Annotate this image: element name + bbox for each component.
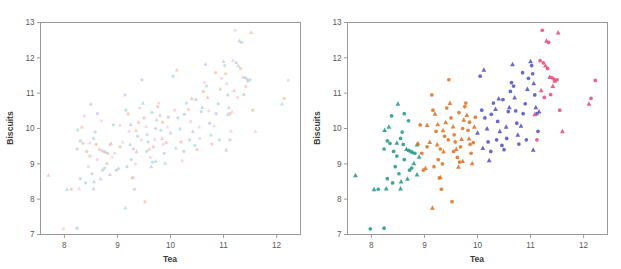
data-point xyxy=(153,137,157,141)
x-tick-label: 10 xyxy=(166,241,176,250)
data-point xyxy=(460,159,465,164)
data-point xyxy=(244,84,248,88)
data-point xyxy=(402,158,406,162)
data-point xyxy=(129,122,133,126)
data-point xyxy=(234,29,237,32)
data-point xyxy=(154,127,157,130)
right-x-axis-ticks: 89101112 xyxy=(369,235,589,250)
y-tick-label: 13 xyxy=(332,18,342,27)
data-point xyxy=(435,122,440,127)
data-point xyxy=(159,129,162,132)
data-point xyxy=(160,136,164,140)
data-point xyxy=(540,28,544,32)
right-data-points xyxy=(353,28,597,230)
data-point xyxy=(401,143,405,147)
data-point xyxy=(165,125,169,129)
data-point xyxy=(399,137,403,141)
data-point xyxy=(180,140,183,143)
data-point xyxy=(512,84,516,88)
data-point xyxy=(436,158,440,162)
data-point xyxy=(521,112,525,116)
data-point xyxy=(46,173,50,177)
data-point xyxy=(441,162,445,166)
data-point xyxy=(399,179,404,184)
y-tick-label: 11 xyxy=(333,89,342,98)
data-point xyxy=(253,129,257,133)
data-point xyxy=(431,108,435,112)
data-point xyxy=(151,160,154,163)
data-point xyxy=(210,142,213,145)
data-point xyxy=(466,128,470,132)
data-point xyxy=(407,119,411,123)
data-point xyxy=(441,128,446,132)
data-point xyxy=(158,113,162,117)
data-point xyxy=(70,188,73,191)
y-tick-label: 9 xyxy=(337,160,342,169)
data-point xyxy=(531,72,535,76)
x-tick-label: 8 xyxy=(369,241,374,250)
right-y-axis-ticks: 78910111213 xyxy=(332,18,347,239)
data-point xyxy=(515,132,520,137)
data-point xyxy=(227,105,231,109)
x-tick-label: 10 xyxy=(473,241,483,250)
data-point xyxy=(156,105,159,108)
data-point xyxy=(217,102,220,105)
y-tick-label: 8 xyxy=(30,195,35,204)
data-point xyxy=(537,109,542,114)
data-point xyxy=(220,77,223,80)
data-point xyxy=(198,137,201,140)
data-point xyxy=(155,118,159,122)
data-point xyxy=(400,130,404,134)
x-tick-label: 12 xyxy=(272,241,282,250)
data-point xyxy=(507,105,512,110)
data-point xyxy=(538,59,542,63)
data-point xyxy=(434,129,438,133)
data-point xyxy=(506,110,510,114)
data-point xyxy=(123,93,126,96)
right-panel-clustered: 78910111213 89101112 Tea Biscuits xyxy=(310,0,621,269)
data-point xyxy=(79,177,82,180)
data-point xyxy=(88,141,92,145)
data-point xyxy=(132,147,135,150)
data-point xyxy=(85,150,88,153)
data-point xyxy=(546,67,550,71)
data-point xyxy=(461,127,465,131)
data-point xyxy=(239,67,242,70)
data-point xyxy=(472,124,477,129)
right-x-axis-title: Tea xyxy=(470,254,484,264)
x-tick-label: 9 xyxy=(422,241,427,250)
data-point xyxy=(134,162,137,165)
data-point xyxy=(550,84,555,89)
data-point xyxy=(411,161,416,166)
data-point xyxy=(450,200,454,204)
y-tick-label: 10 xyxy=(332,124,342,133)
data-point xyxy=(223,64,226,67)
data-point xyxy=(230,109,234,113)
data-point xyxy=(235,61,238,64)
two-panel-scatter-figure: 78910111213 89101112 Tea Biscuits 789101… xyxy=(0,0,621,269)
data-point xyxy=(376,187,380,191)
data-point xyxy=(425,122,430,127)
data-point xyxy=(188,138,191,141)
data-point xyxy=(471,141,475,145)
data-point xyxy=(215,112,218,115)
y-tick-label: 8 xyxy=(337,195,342,204)
data-point xyxy=(391,181,395,185)
data-point xyxy=(461,117,466,122)
data-point xyxy=(464,101,468,105)
data-point xyxy=(517,142,521,146)
data-point xyxy=(394,140,399,145)
x-tick-label: 11 xyxy=(526,241,535,250)
data-point xyxy=(489,150,493,154)
data-point xyxy=(149,165,153,169)
data-point xyxy=(248,78,251,81)
x-tick-label: 8 xyxy=(62,241,67,250)
data-point xyxy=(560,129,565,134)
data-point xyxy=(134,128,138,132)
data-point xyxy=(417,154,422,159)
data-point xyxy=(103,166,106,169)
data-point xyxy=(146,133,149,136)
left-data-points xyxy=(46,29,289,231)
data-point xyxy=(497,129,502,134)
data-point xyxy=(392,150,396,154)
